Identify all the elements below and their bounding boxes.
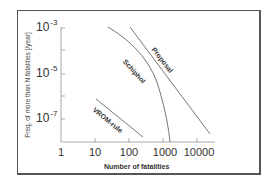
y-tick-label-1e-7: 10-7 xyxy=(36,109,57,125)
x-tick-label-1: 1 xyxy=(58,146,64,158)
y-axis-label: Freq. of more than N fatalities [/year] xyxy=(24,32,31,138)
y-tick-label-1e-3: 10-3 xyxy=(36,18,57,34)
y-tick-label-1e-5: 10-5 xyxy=(36,64,57,80)
x-tick-label-10: 10 xyxy=(89,146,101,158)
x-tick-label-100: 100 xyxy=(120,146,138,158)
x-axis-label: Number of fatalities xyxy=(104,163,169,170)
x-tick-label-10000: 10000 xyxy=(184,146,215,158)
x-tick-label-1000: 1000 xyxy=(153,146,177,158)
